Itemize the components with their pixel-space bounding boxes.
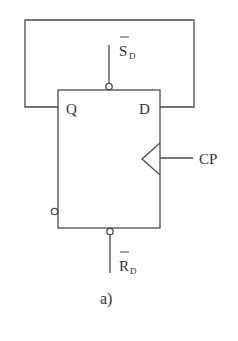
q-label: Q xyxy=(66,101,77,117)
reset-label-subscript: D xyxy=(130,266,137,276)
set-inversion-bubble xyxy=(106,83,112,89)
d-flip-flop-diagram: Q D S D R D CP a) xyxy=(0,0,238,341)
qbar-inversion-bubble xyxy=(51,208,57,214)
d-label: D xyxy=(139,101,150,117)
reset-inversion-bubble xyxy=(107,228,113,234)
set-label-subscript: D xyxy=(129,51,136,61)
figure-caption: a) xyxy=(100,290,112,308)
set-label: S xyxy=(119,43,127,59)
reset-label: R xyxy=(119,258,129,274)
clock-triangle-icon xyxy=(142,143,160,175)
clock-label: CP xyxy=(199,151,217,167)
